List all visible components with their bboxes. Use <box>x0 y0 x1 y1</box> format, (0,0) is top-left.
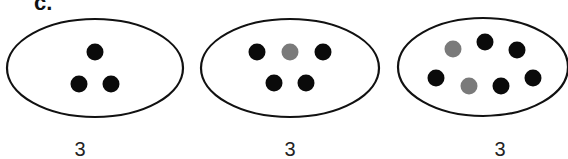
set-ellipse <box>201 19 379 117</box>
black-dot <box>509 42 526 59</box>
set-2 <box>201 19 379 117</box>
black-dot <box>266 75 283 92</box>
set-2-count: 3 <box>275 138 305 159</box>
gray-dot <box>461 78 478 95</box>
set-1 <box>7 19 183 117</box>
gray-dot <box>445 41 462 58</box>
set-ellipse <box>7 19 183 117</box>
gray-dot <box>282 44 299 61</box>
set-3-count: 3 <box>485 138 515 159</box>
set-ellipse <box>398 18 568 116</box>
set-diagram <box>0 0 568 159</box>
black-dot <box>315 44 332 61</box>
black-dot <box>298 75 315 92</box>
set-3 <box>398 18 568 116</box>
black-dot <box>525 70 542 87</box>
black-dot <box>428 70 445 87</box>
set-1-count: 3 <box>65 138 95 159</box>
black-dot <box>103 76 120 93</box>
black-dot <box>87 44 104 61</box>
black-dot <box>71 76 88 93</box>
black-dot <box>493 78 510 95</box>
black-dot <box>477 34 494 51</box>
black-dot <box>249 44 266 61</box>
